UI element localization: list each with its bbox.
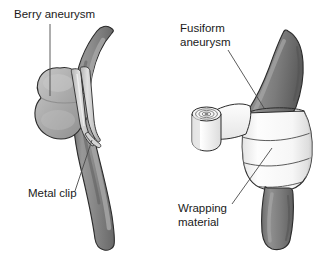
label-fusiform-aneurysm-line2: aneurysm — [180, 36, 231, 48]
illustration-canvas: Berry aneurysm Metal clip Fusiform aneur… — [0, 0, 316, 258]
label-metal-clip: Metal clip — [28, 187, 77, 199]
label-berry-aneurysm: Berry aneurysm — [14, 8, 95, 20]
label-wrapping-material-line1: Wrapping — [178, 202, 227, 214]
label-fusiform-aneurysm-line1: Fusiform — [180, 22, 225, 34]
berry-aneurysm-highlight — [43, 74, 73, 92]
wrapping-body — [242, 111, 312, 189]
wrapping-roll-core — [205, 113, 208, 115]
label-wrapping-material-line2: material — [178, 216, 219, 228]
wrapping-roll-shade — [192, 116, 200, 150]
medical-illustration-figure: Berry aneurysm Metal clip Fusiform aneur… — [0, 0, 316, 258]
right-lower-artery — [262, 187, 294, 250]
berry-aneurysm-highlight-lower — [41, 110, 75, 130]
